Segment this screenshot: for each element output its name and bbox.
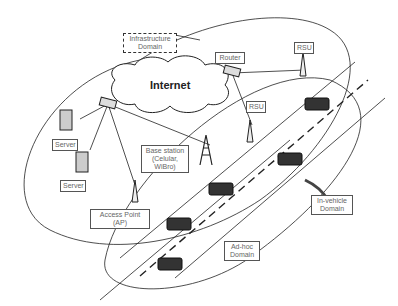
- infrastructure-domain-label: Infrastructure Domain: [123, 33, 177, 53]
- vehicle-icon: [158, 258, 182, 270]
- base-station-label: Base station (Celular, WiBro): [141, 145, 189, 173]
- vanet-architecture-diagram: Internet Infrastructure Domain Router RS…: [0, 0, 398, 306]
- access-point-label: Access Point (AP): [90, 209, 150, 229]
- server-label-2: Server: [60, 180, 86, 192]
- router-label: Router: [215, 52, 245, 64]
- rsu-mid-label: RSU: [246, 101, 266, 113]
- server-icon-2: [76, 152, 88, 172]
- access-point-icon: [132, 180, 138, 202]
- server-icon: [60, 110, 72, 130]
- adhoc-domain-label: Ad-hoc Domain: [224, 241, 260, 261]
- rsu-antenna-icon: [300, 52, 306, 76]
- vehicle-icon: [167, 218, 191, 230]
- rsu-top-label: RSU: [294, 42, 314, 54]
- diagram-canvas: [0, 0, 398, 306]
- internet-label: Internet: [150, 79, 190, 91]
- rsu-antenna-icon-2: [247, 120, 253, 142]
- vehicle-icon: [209, 183, 233, 195]
- server-label-1: Server: [52, 139, 78, 151]
- in-vehicle-domain-label: In-vehicle Domain: [311, 195, 353, 215]
- vehicle-icon: [305, 98, 329, 110]
- base-station-tower-icon: [200, 135, 212, 165]
- vehicle-icon: [278, 153, 302, 165]
